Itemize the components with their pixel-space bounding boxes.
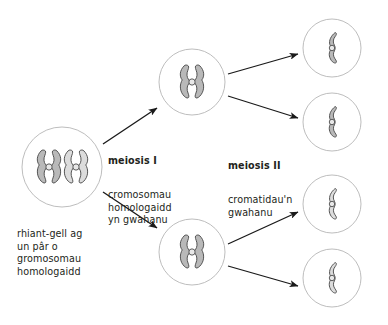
label-meiosis-one: meiosis I cromosomau homologaidd yn gwah… — [108, 134, 172, 248]
gamete-cell-2 — [303, 93, 361, 151]
label-meiosis-two: meiosis II cromatidau'n gwahanu — [228, 139, 293, 240]
gamete-cell-4 — [303, 249, 361, 307]
label-parent-cell-caption: rhiant-gell ag un pâr o gromosomau homol… — [17, 228, 82, 279]
label-meiosis-two-heading: meiosis II — [228, 160, 293, 173]
parent-cell — [22, 127, 102, 207]
label-meiosis-one-heading: meiosis I — [108, 155, 172, 168]
label-meiosis-one-body: cromosomau homologaidd yn gwahanu — [108, 189, 172, 227]
meiosis-diagram-canvas: meiosis I cromosomau homologaidd yn gwah… — [0, 0, 388, 325]
arrow-top-to-gamete-1 — [228, 54, 298, 74]
label-meiosis-two-body: cromatidau'n gwahanu — [228, 194, 293, 219]
label-parent-cell: rhiant-gell ag un pâr o gromosomau homol… — [17, 207, 82, 300]
gamete-cell-3 — [303, 175, 361, 233]
meiosis-one-daughter-cell-top — [159, 49, 225, 115]
gamete-cell-1 — [303, 19, 361, 77]
arrow-bottom-to-gamete-4 — [228, 266, 298, 286]
arrow-top-to-gamete-2 — [228, 96, 298, 118]
